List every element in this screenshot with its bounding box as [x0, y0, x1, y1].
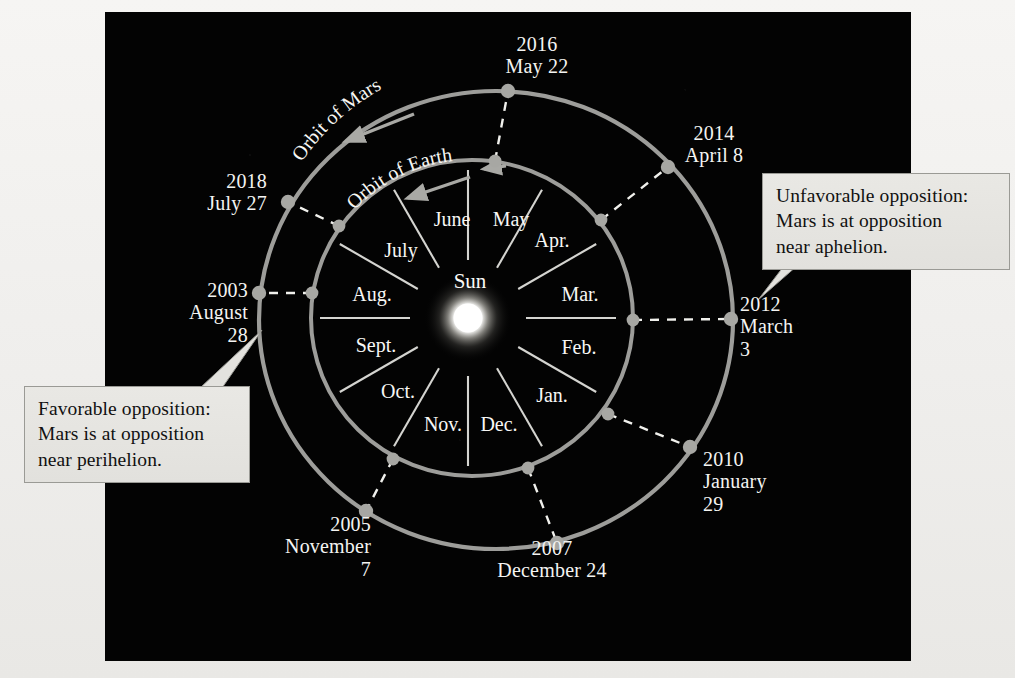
month-label-aug: Aug.	[352, 283, 391, 306]
callout-line: Favorable opposition:	[38, 396, 236, 421]
opposition-line-2005	[366, 459, 393, 511]
month-label-oct: Oct.	[381, 380, 415, 403]
month-label-dec: Dec.	[480, 413, 517, 436]
opposition-line-2014	[601, 167, 668, 220]
month-label-july: July	[384, 239, 417, 262]
date-line: December 24	[497, 559, 606, 581]
date-line: 28	[0, 324, 248, 346]
date-line: 2012	[740, 293, 793, 315]
date-line: August	[0, 301, 248, 323]
mars-dot-2016	[501, 84, 515, 98]
month-label-mar: Mar.	[561, 283, 598, 306]
opposition-date-label-2014: 2014April 8	[685, 122, 744, 167]
date-line: 2007	[497, 537, 606, 559]
mars-dot-2012	[724, 312, 738, 326]
opposition-date-label-2007: 2007December 24	[497, 537, 606, 582]
sun-label: Sun	[454, 269, 487, 294]
date-line: 2018	[0, 170, 267, 192]
opposition-date-label-2010: 2010January29	[703, 448, 767, 515]
opposition-line-2007	[528, 468, 557, 543]
month-label-sept: Sept.	[356, 334, 397, 357]
sun-core	[454, 304, 483, 333]
earth-dot-2010	[602, 408, 615, 421]
date-line: 2003	[0, 279, 248, 301]
earth-dot-2007	[522, 462, 535, 475]
month-label-nov: Nov.	[424, 413, 462, 436]
month-label-apr: Apr.	[535, 229, 570, 252]
mars-dot-2018	[281, 195, 295, 209]
opposition-date-label-2005: 2005November7	[0, 513, 371, 580]
earth-direction-arrow	[408, 177, 470, 198]
callout-line: Mars is at opposition	[776, 208, 996, 233]
callout-line: Unfavorable opposition:	[776, 183, 996, 208]
date-line: November	[0, 535, 371, 557]
month-label-may: May	[493, 208, 530, 231]
earth-dot-2016	[489, 155, 502, 168]
favorable-opposition-callout: Favorable opposition: Mars is at opposit…	[24, 386, 250, 483]
date-line: 2005	[0, 513, 371, 535]
month-label-june: June	[434, 208, 471, 231]
date-line: 2010	[703, 448, 767, 470]
date-line: 29	[703, 493, 767, 515]
earth-dot-2012	[627, 314, 640, 327]
opposition-date-label-2018: 2018July 27	[0, 170, 267, 215]
earth-dot-2003	[306, 287, 319, 300]
unfavorable-opposition-callout: Unfavorable opposition: Mars is at oppos…	[762, 173, 1010, 270]
mars-dot-2010	[683, 440, 697, 454]
date-line: July 27	[0, 192, 267, 214]
date-line: January	[703, 470, 767, 492]
opposition-date-label-2003: 2003August28	[0, 279, 248, 346]
date-line: 3	[740, 338, 793, 360]
month-label-feb: Feb.	[562, 336, 597, 359]
opposition-line-2010	[608, 414, 690, 447]
date-line: April 8	[685, 144, 744, 166]
opposition-line-2016	[495, 91, 508, 161]
callout-line: Mars is at opposition	[38, 421, 236, 446]
date-line: May 22	[506, 55, 569, 77]
mars-dot-2014	[661, 160, 675, 174]
date-line: 2014	[685, 122, 744, 144]
earth-dot-2005	[387, 453, 400, 466]
earth-dot-2018	[333, 220, 346, 233]
mars-dot-2003	[252, 286, 266, 300]
callout-line: near aphelion.	[776, 234, 996, 259]
opposition-date-label-2012: 2012March3	[740, 293, 793, 360]
callout-line: near perihelion.	[38, 447, 236, 472]
orbit-of-earth-label: Orbit of Earth	[342, 143, 454, 213]
opposition-line-2018	[288, 202, 339, 226]
date-line: 2016	[506, 33, 569, 55]
date-line: 7	[0, 558, 371, 580]
month-label-jan: Jan.	[536, 384, 568, 407]
opposition-line-2012	[633, 319, 731, 320]
opposition-date-label-2016: 2016May 22	[506, 33, 569, 78]
earth-dot-2014	[595, 214, 608, 227]
date-line: March	[740, 315, 793, 337]
